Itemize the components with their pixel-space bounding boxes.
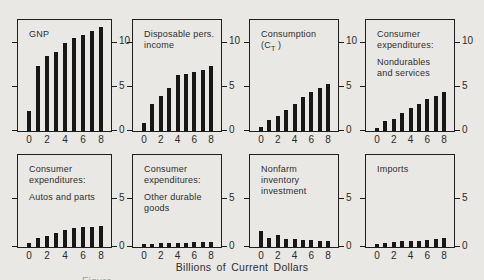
bar	[309, 240, 313, 247]
panel-title: Consumerexpenditures:Other durablegoods	[144, 164, 202, 214]
x-tick-label: 8	[203, 134, 219, 145]
bar	[375, 244, 379, 247]
x-tick-label: 0	[369, 134, 385, 145]
panel-title: Consumption(CT )	[261, 29, 316, 51]
y-tick-label: 5	[462, 192, 478, 204]
bar	[326, 84, 330, 131]
bar	[383, 243, 387, 247]
bar	[167, 243, 171, 247]
y-tick-label: 0	[229, 124, 245, 136]
panel-autos-and-parts: 0502468Consumerexpenditures:Autos and pa…	[17, 154, 112, 248]
bar	[201, 70, 205, 131]
bar	[150, 244, 154, 247]
y-tick-mark	[338, 86, 344, 87]
x-tick-label: 2	[270, 250, 286, 261]
y-tick-mark	[12, 246, 18, 247]
partial-caption: Figure	[82, 276, 342, 280]
x-tick-label: 6	[419, 134, 435, 145]
bar	[159, 243, 163, 247]
y-tick-mark	[221, 246, 227, 247]
y-tick-mark	[12, 42, 18, 43]
bar	[54, 52, 58, 131]
bar	[326, 241, 330, 247]
y-tick-mark	[244, 130, 250, 131]
y-tick-mark	[127, 198, 133, 199]
y-tick-mark	[454, 130, 460, 131]
bar	[375, 128, 379, 131]
bar	[392, 242, 396, 247]
bar	[442, 92, 446, 131]
y-tick-mark	[111, 198, 117, 199]
bar	[27, 243, 31, 247]
bar	[209, 66, 213, 131]
x-tick-label: 4	[403, 250, 419, 261]
x-tick-label: 8	[436, 134, 452, 145]
bar	[99, 226, 103, 247]
panel-nonfarm-inventory-investment: 0502468Nonfarminventoryinvestment	[249, 154, 339, 248]
x-tick-label: 0	[253, 134, 269, 145]
y-tick-mark	[111, 86, 117, 87]
bar	[259, 231, 263, 248]
bar	[54, 233, 58, 248]
bar	[417, 104, 421, 132]
x-tick-label: 2	[270, 134, 286, 145]
bar	[142, 123, 146, 131]
y-tick-mark	[360, 198, 366, 199]
x-tick-label: 4	[403, 134, 419, 145]
y-tick-mark	[360, 130, 366, 131]
y-tick-mark	[12, 86, 18, 87]
bar	[293, 239, 297, 247]
bar	[276, 235, 280, 247]
bar	[409, 108, 413, 131]
x-tick-label: 0	[21, 250, 37, 261]
y-tick-mark	[244, 246, 250, 247]
y-tick-label: 5	[462, 80, 478, 92]
bar	[99, 27, 103, 131]
bar	[63, 230, 67, 247]
y-tick-label: 5	[229, 80, 245, 92]
y-tick-label: 10	[462, 35, 478, 47]
bar	[400, 113, 404, 131]
x-axis-caption: Billions of Current Dollars	[0, 261, 484, 273]
bar	[400, 241, 404, 247]
y-tick-mark	[338, 130, 344, 131]
y-tick-mark	[221, 130, 227, 131]
bar	[45, 56, 49, 131]
y-tick-mark	[338, 246, 344, 247]
y-tick-mark	[454, 246, 460, 247]
bar	[63, 43, 67, 131]
bar	[425, 240, 429, 247]
x-tick-label: 8	[203, 250, 219, 261]
y-tick-label: 10	[229, 35, 245, 47]
x-tick-label: 2	[153, 134, 169, 145]
x-tick-label: 2	[153, 250, 169, 261]
panel-title: Consumerexpenditures:Nondurablesand serv…	[377, 29, 434, 79]
y-tick-mark	[360, 86, 366, 87]
panel-imports: 0502468Imports	[365, 154, 455, 248]
x-tick-label: 8	[320, 134, 336, 145]
panel-gnp: 051002468GNP	[17, 19, 112, 132]
x-tick-label: 6	[186, 250, 202, 261]
y-tick-mark	[127, 130, 133, 131]
bar	[301, 240, 305, 247]
x-tick-label: 4	[170, 134, 186, 145]
y-tick-mark	[454, 198, 460, 199]
y-tick-mark	[454, 42, 460, 43]
y-tick-mark	[127, 42, 133, 43]
bar	[72, 38, 76, 131]
y-tick-mark	[111, 42, 117, 43]
bar	[318, 241, 322, 247]
y-tick-mark	[221, 198, 227, 199]
bar	[184, 243, 188, 247]
y-tick-mark	[12, 198, 18, 199]
x-tick-label: 8	[436, 250, 452, 261]
panel-title: Consumerexpenditures:Autos and parts	[29, 164, 95, 203]
x-tick-label: 0	[136, 250, 152, 261]
bar	[36, 238, 40, 247]
x-tick-label: 6	[75, 134, 91, 145]
panel-nondurables-and-services: 051002468Consumerexpenditures:Nondurable…	[365, 19, 455, 132]
bar	[176, 75, 180, 131]
bar	[417, 241, 421, 247]
bar	[159, 96, 163, 131]
x-tick-label: 6	[186, 134, 202, 145]
